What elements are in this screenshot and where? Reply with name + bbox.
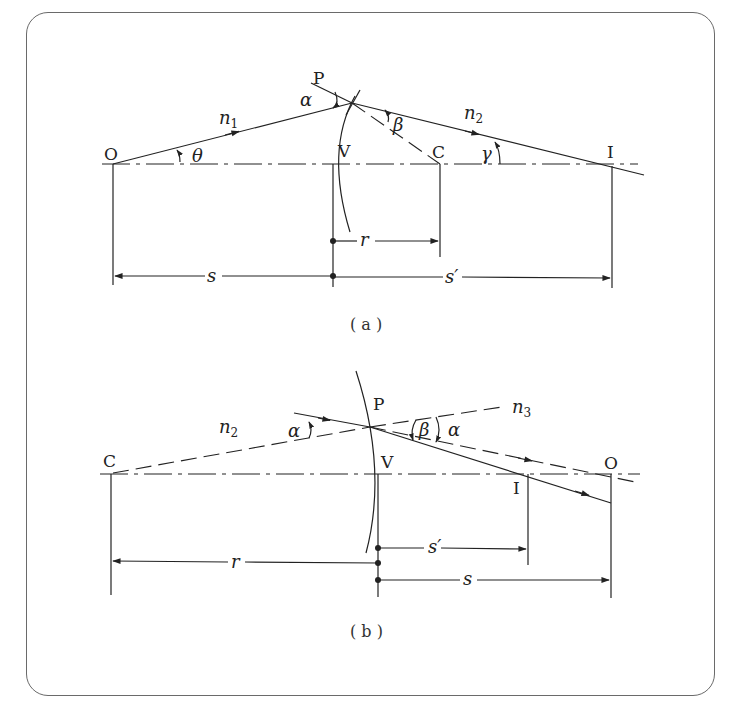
point-I-b: I xyxy=(513,478,520,498)
medium-n3-label: n3 xyxy=(512,396,531,420)
dim-s-b: s xyxy=(463,568,472,589)
point-P-a: P xyxy=(313,68,324,88)
point-P-b: P xyxy=(373,394,384,414)
medium-n2-label-b: n2 xyxy=(219,416,238,440)
dim-s-a: s xyxy=(207,265,216,286)
dim-s-prime-a: s′ xyxy=(445,266,458,287)
point-C-a: C xyxy=(432,142,445,162)
panel-a xyxy=(102,83,644,288)
angle-alpha-a: α xyxy=(300,89,312,110)
medium-n2-label-a: n2 xyxy=(464,102,483,126)
refracted-ray-b xyxy=(370,427,611,503)
angle-gamma: γ xyxy=(481,143,492,164)
angle-beta-a: β xyxy=(392,114,403,135)
caption-b: ( b ) xyxy=(350,622,383,641)
medium-n1-label: n1 xyxy=(219,107,238,131)
caption-a: ( a ) xyxy=(350,315,382,334)
angle-alpha-left-b: α xyxy=(288,420,300,441)
point-V-b: V xyxy=(380,452,394,472)
point-C-b: C xyxy=(103,451,116,471)
virtual-ray-b xyxy=(370,427,640,483)
incident-ray-b xyxy=(294,413,370,427)
angle-beta-b: β xyxy=(418,419,429,440)
point-V-a: V xyxy=(337,141,351,161)
point-I-a: I xyxy=(607,142,614,162)
point-O-b: O xyxy=(604,453,618,473)
angle-alpha-right-b: α xyxy=(448,419,460,440)
angle-theta: θ xyxy=(192,145,203,166)
dim-s-prime-b: s′ xyxy=(428,536,441,557)
dim-r-a: r xyxy=(360,229,370,250)
point-O-a: O xyxy=(104,144,118,164)
radius-line-b xyxy=(113,427,370,473)
refraction-diagram: P O V C I n1 n2 α θ β γ r s s′ ( a ) xyxy=(0,0,734,714)
panel-b xyxy=(100,371,640,598)
dim-r-b: r xyxy=(231,551,241,572)
